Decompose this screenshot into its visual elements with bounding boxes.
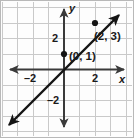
y-axis-label: y [69,3,75,14]
point-marker-0-1 [61,51,67,57]
graph-canvas [0,0,134,138]
y-tick-label-positive-2: 2 [52,33,58,44]
point-marker-2-3 [92,20,98,26]
point-label-y-intercept: (0, 1) [69,51,96,63]
coordinate-plane-figure: y x 2 –2 2 –2 (0, 1) (2, 3) [0,0,134,138]
point-label-upper: (2, 3) [94,31,121,43]
x-tick-label-negative-2: –2 [24,73,36,84]
y-tick-label-negative-2: –2 [47,95,59,106]
x-tick-label-positive-2: 2 [92,73,98,84]
x-axis-label: x [119,74,125,85]
